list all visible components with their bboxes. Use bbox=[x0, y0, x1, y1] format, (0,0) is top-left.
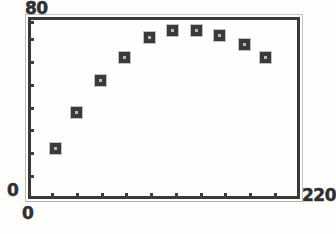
data-point-marker bbox=[71, 107, 82, 118]
data-point-marker bbox=[144, 32, 155, 43]
x-axis-tick bbox=[200, 193, 203, 199]
x-axis-min-label: 0 bbox=[22, 205, 33, 222]
data-point-marker bbox=[119, 52, 130, 63]
data-point-marker bbox=[239, 39, 250, 50]
data-point-marker bbox=[191, 25, 202, 36]
data-point-marker bbox=[167, 25, 178, 36]
x-axis-tick bbox=[76, 193, 79, 199]
x-axis-tick bbox=[175, 193, 178, 199]
x-axis-tick bbox=[224, 193, 227, 199]
data-point-marker bbox=[95, 75, 106, 86]
x-axis-tick bbox=[274, 193, 277, 199]
y-axis-tick bbox=[28, 152, 34, 155]
y-axis-min-label: 0 bbox=[7, 182, 18, 199]
x-axis-max-label: 220 bbox=[302, 187, 336, 204]
y-axis-tick bbox=[28, 61, 34, 64]
data-point-marker bbox=[50, 143, 61, 154]
x-axis-tick bbox=[150, 193, 153, 199]
y-axis-tick bbox=[28, 175, 34, 178]
plot-data-area bbox=[28, 17, 300, 199]
x-axis-tick bbox=[101, 193, 104, 199]
y-axis-tick bbox=[28, 21, 34, 24]
y-axis-tick bbox=[28, 38, 34, 41]
y-axis-max-label: 80 bbox=[25, 0, 48, 17]
data-point-marker bbox=[260, 52, 271, 63]
y-axis-tick bbox=[28, 129, 34, 132]
y-axis-tick bbox=[28, 107, 34, 110]
data-point-marker bbox=[214, 30, 225, 41]
chart-figure: 80 0 0 220 bbox=[0, 0, 336, 234]
x-axis-tick bbox=[51, 193, 54, 199]
y-axis-tick bbox=[28, 84, 34, 87]
x-axis-tick bbox=[249, 193, 252, 199]
x-axis-tick bbox=[125, 193, 128, 199]
